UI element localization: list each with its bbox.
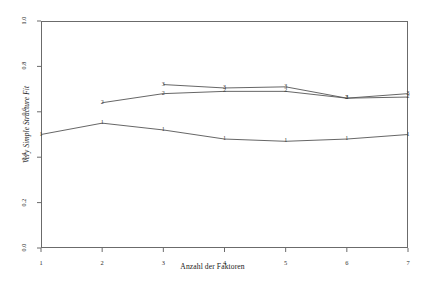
y-tick-label: 0.0 [20, 237, 27, 259]
y-axis-title: Very Simple Structure Fit [22, 55, 31, 195]
vss-chart: 0.00.20.40.60.81.0 1234567 1111111222222… [0, 0, 425, 281]
y-tick-label: 1.0 [20, 10, 27, 32]
series-line-1 [41, 123, 408, 141]
data-series-group [41, 85, 408, 142]
axis-ticks [37, 21, 408, 252]
x-axis-title: Anzahl der Faktoren [0, 262, 425, 271]
plot-canvas [0, 0, 425, 281]
